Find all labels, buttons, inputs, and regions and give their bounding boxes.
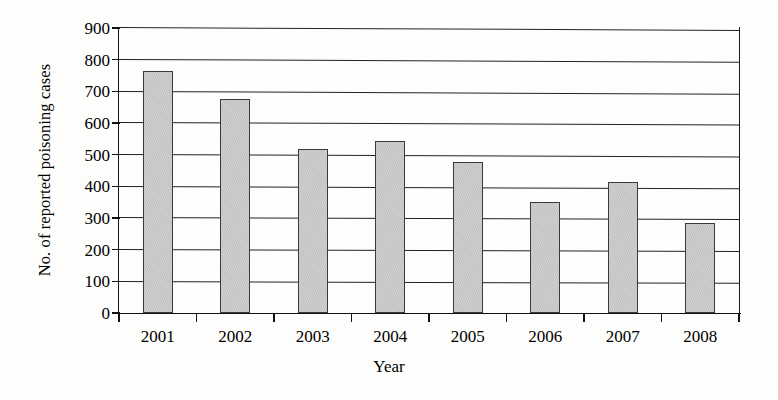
x-axis-tick-mark (506, 313, 507, 322)
y-axis-tick-mark (112, 281, 120, 282)
plot-area: 20012002200320042005200620072008 (118, 28, 741, 314)
bar-chart-figure: No. of reported poisoning cases 01002003… (0, 0, 778, 400)
y-axis-tick-mark (112, 122, 120, 123)
x-axis-title: Year (0, 357, 778, 377)
x-axis-tick-mark (428, 313, 429, 322)
x-axis-tick-label: 2006 (505, 327, 585, 347)
x-axis-tick-mark (351, 313, 352, 322)
y-axis-tick-label: 400 (58, 178, 110, 195)
gridline (119, 281, 739, 284)
gridline (119, 122, 739, 126)
x-axis-tick-mark (118, 313, 119, 322)
bar (685, 223, 715, 313)
bar (375, 141, 405, 313)
y-axis-tick-label: 700 (58, 83, 110, 100)
gridline (119, 91, 739, 95)
y-axis-tick-label: 900 (58, 20, 110, 37)
bar (530, 202, 560, 313)
gridline (119, 186, 739, 189)
x-axis-tick-mark (273, 313, 274, 322)
bar (220, 99, 250, 313)
gridline (119, 27, 739, 31)
y-axis-tick-label: 200 (58, 241, 110, 258)
x-axis-tick-label: 2005 (428, 327, 508, 347)
bar (453, 162, 483, 313)
y-axis-tick-mark (112, 249, 120, 250)
x-axis-tick-mark (738, 313, 739, 322)
x-axis-tick-label: 2002 (195, 327, 275, 347)
x-axis-tick-label: 2003 (273, 327, 353, 347)
x-axis-tick-mark (661, 313, 662, 322)
y-axis-tick-label: 800 (58, 51, 110, 68)
y-axis-tick-mark (112, 27, 120, 28)
x-axis-tick-label: 2007 (583, 327, 663, 347)
y-axis-tick-mark (112, 186, 120, 187)
bar (143, 71, 173, 313)
y-axis-tick-mark (112, 217, 120, 218)
gridline (119, 217, 739, 220)
y-axis-tick-label: 300 (58, 210, 110, 227)
bar (608, 182, 638, 313)
gridline (119, 154, 739, 158)
x-axis-tick-label: 2008 (660, 327, 740, 347)
gridline (119, 249, 739, 252)
x-axis-tick-mark (583, 313, 584, 322)
x-axis-tick-mark (196, 313, 197, 322)
y-axis-tick-label: 600 (58, 115, 110, 132)
x-axis-tick-label: 2004 (350, 327, 430, 347)
y-axis-tick-label: 100 (58, 273, 110, 290)
y-axis-tick-label: 0 (58, 305, 110, 322)
y-axis-tick-labels: 0100200300400500600700800900 (58, 28, 110, 313)
y-axis-tick-mark (112, 154, 120, 155)
gridline (119, 59, 739, 63)
y-axis-tick-mark (112, 59, 120, 60)
bar (298, 149, 328, 313)
y-axis-tick-mark (112, 91, 120, 92)
y-axis-tick-label: 500 (58, 146, 110, 163)
plot-right-border (739, 27, 740, 314)
x-axis-tick-label: 2001 (118, 327, 198, 347)
